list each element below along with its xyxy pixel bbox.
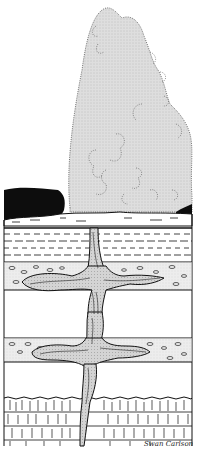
steam-plume (69, 8, 192, 212)
bedrock-layer (4, 397, 192, 446)
geyser-illustration (0, 0, 198, 454)
artist-signature: Swan Carlson (144, 440, 193, 448)
geyser-plumbing (22, 228, 164, 446)
